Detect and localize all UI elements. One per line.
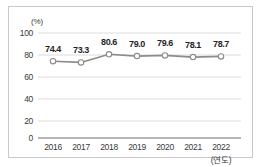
data-label-2022: 78.7	[203, 40, 239, 49]
chart-canvas	[9, 7, 254, 159]
line-chart: (%) 100 80 60 40 20 0	[9, 7, 254, 159]
x-tick-label-2022: 2022	[203, 143, 239, 152]
data-label-2017: 73.3	[63, 46, 99, 55]
x-axis-unit-label: (연도)	[203, 153, 239, 165]
chart-frame: (%) 100 80 60 40 20 0	[8, 6, 253, 158]
